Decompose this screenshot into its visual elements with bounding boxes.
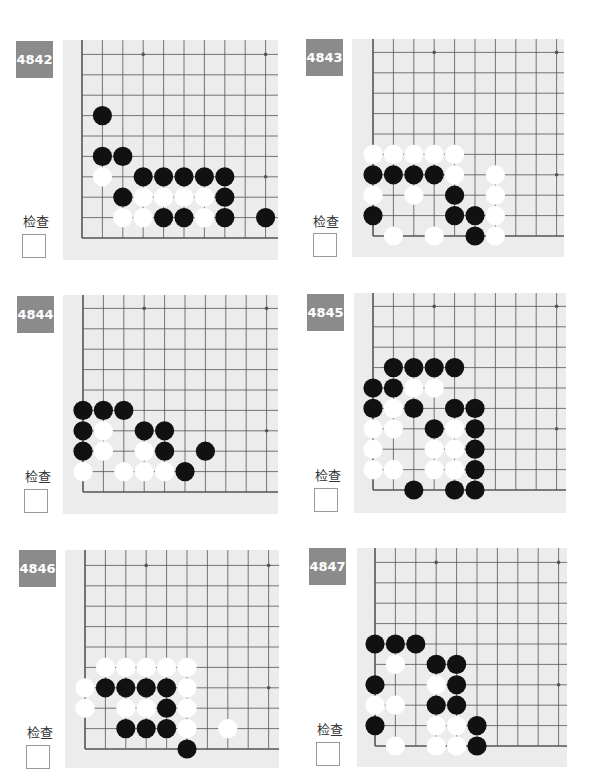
- star-point-icon: [555, 173, 559, 177]
- star-point-icon: [434, 561, 438, 565]
- white-stone-icon: [486, 186, 505, 205]
- star-point-icon: [432, 51, 436, 55]
- go-board[interactable]: [354, 293, 566, 513]
- black-stone-icon: [215, 167, 234, 186]
- white-stone-icon: [425, 460, 444, 479]
- white-stone-icon: [404, 186, 423, 205]
- black-stone-icon: [155, 442, 174, 461]
- white-stone-icon: [386, 655, 405, 674]
- problem-number-badge: 4844: [17, 296, 54, 333]
- check-checkbox[interactable]: [24, 489, 48, 513]
- board-grid: [354, 293, 566, 513]
- black-stone-icon: [96, 678, 115, 697]
- black-stone-icon: [465, 440, 484, 459]
- check-checkbox[interactable]: [26, 745, 50, 769]
- white-stone-icon: [363, 145, 382, 164]
- black-stone-icon: [465, 480, 484, 499]
- black-stone-icon: [425, 358, 444, 377]
- go-board[interactable]: [63, 40, 278, 260]
- white-stone-icon: [137, 699, 156, 718]
- white-stone-icon: [447, 736, 466, 755]
- black-stone-icon: [215, 188, 234, 207]
- star-point-icon: [555, 427, 559, 431]
- black-stone-icon: [154, 208, 173, 227]
- white-stone-icon: [425, 226, 444, 245]
- white-stone-icon: [427, 736, 446, 755]
- black-stone-icon: [427, 696, 446, 715]
- white-stone-icon: [363, 440, 382, 459]
- black-stone-icon: [447, 696, 466, 715]
- white-stone-icon: [94, 421, 113, 440]
- white-stone-icon: [486, 206, 505, 225]
- black-stone-icon: [135, 421, 154, 440]
- black-stone-icon: [465, 419, 484, 438]
- black-stone-icon: [157, 678, 176, 697]
- black-stone-icon: [365, 634, 384, 653]
- black-stone-icon: [196, 442, 215, 461]
- star-point-icon: [267, 564, 271, 568]
- star-point-icon: [557, 683, 561, 687]
- white-stone-icon: [94, 442, 113, 461]
- black-stone-icon: [363, 399, 382, 418]
- white-stone-icon: [404, 145, 423, 164]
- white-stone-icon: [486, 165, 505, 184]
- black-stone-icon: [154, 167, 173, 186]
- check-checkbox[interactable]: [314, 488, 338, 512]
- star-point-icon: [144, 564, 148, 568]
- black-stone-icon: [114, 401, 133, 420]
- black-stone-icon: [465, 399, 484, 418]
- star-point-icon: [555, 51, 559, 55]
- check-checkbox[interactable]: [316, 742, 340, 766]
- go-board[interactable]: [65, 550, 279, 768]
- black-stone-icon: [215, 208, 234, 227]
- white-stone-icon: [154, 188, 173, 207]
- board-grid: [357, 548, 567, 767]
- white-stone-icon: [177, 678, 196, 697]
- black-stone-icon: [425, 419, 444, 438]
- black-stone-icon: [445, 206, 464, 225]
- go-board[interactable]: [352, 39, 564, 257]
- black-stone-icon: [447, 675, 466, 694]
- white-stone-icon: [384, 460, 403, 479]
- go-board[interactable]: [63, 295, 278, 514]
- white-stone-icon: [445, 419, 464, 438]
- board-grid: [63, 40, 278, 260]
- check-label: 检查: [311, 211, 341, 230]
- white-stone-icon: [365, 696, 384, 715]
- black-stone-icon: [404, 399, 423, 418]
- black-stone-icon: [134, 167, 153, 186]
- black-stone-icon: [157, 719, 176, 738]
- check-checkbox[interactable]: [22, 234, 46, 258]
- white-stone-icon: [135, 442, 154, 461]
- star-point-icon: [555, 305, 559, 309]
- star-point-icon: [265, 429, 269, 433]
- black-stone-icon: [174, 208, 193, 227]
- black-stone-icon: [93, 106, 112, 125]
- white-stone-icon: [425, 145, 444, 164]
- white-stone-icon: [427, 716, 446, 735]
- black-stone-icon: [137, 678, 156, 697]
- white-stone-icon: [116, 658, 135, 677]
- white-stone-icon: [134, 188, 153, 207]
- white-stone-icon: [134, 208, 153, 227]
- star-point-icon: [264, 53, 268, 57]
- black-stone-icon: [467, 736, 486, 755]
- go-board[interactable]: [357, 548, 567, 767]
- white-stone-icon: [445, 145, 464, 164]
- black-stone-icon: [113, 147, 132, 166]
- black-stone-icon: [116, 678, 135, 697]
- white-stone-icon: [363, 460, 382, 479]
- white-stone-icon: [114, 462, 133, 481]
- black-stone-icon: [177, 739, 196, 758]
- black-stone-icon: [384, 378, 403, 397]
- check-label: 检查: [313, 465, 343, 484]
- black-stone-icon: [427, 655, 446, 674]
- white-stone-icon: [75, 699, 94, 718]
- black-stone-icon: [174, 167, 193, 186]
- black-stone-icon: [447, 655, 466, 674]
- check-checkbox[interactable]: [313, 233, 337, 257]
- white-stone-icon: [384, 419, 403, 438]
- white-stone-icon: [137, 658, 156, 677]
- black-stone-icon: [116, 719, 135, 738]
- black-stone-icon: [384, 358, 403, 377]
